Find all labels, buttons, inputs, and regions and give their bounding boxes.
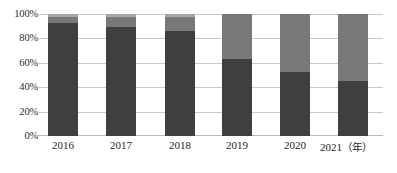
gridline-40 (38, 87, 383, 88)
y-tick-mark-0 (33, 136, 38, 137)
x-tick-label-2021: 2021（年） (320, 139, 390, 154)
bar-segment-series-2-2019 (222, 14, 252, 59)
bar-segment-series-2-2016 (48, 17, 78, 23)
bar-segment-series-2-2020 (280, 14, 310, 72)
y-axis: 100% 80% 60% 40% 20% 0% (0, 0, 38, 173)
gridline-80 (38, 38, 383, 39)
gridline-20 (38, 112, 383, 113)
x-axis: 2016 2017 2018 2019 2020 2021（年） (38, 139, 383, 161)
x-tick-label-2016: 2016 (38, 139, 88, 151)
x-tick-label-2020: 2020 (270, 139, 320, 151)
gridline-60 (38, 63, 383, 64)
x-tick-label-2019: 2019 (212, 139, 262, 151)
bar-segment-series-2-2021 (338, 14, 368, 81)
x-tick-label-2017: 2017 (96, 139, 146, 151)
x-tick-label-2021-year: 2021 (320, 141, 342, 153)
bar-segment-series-1-2017 (106, 27, 136, 136)
bar-segment-series-2-2017 (106, 17, 136, 27)
x-tick-label-2018: 2018 (155, 139, 205, 151)
bar-segment-series-3-2016 (48, 14, 78, 17)
bar-segment-series-2-2018 (165, 17, 195, 31)
bar-segment-series-3-2018 (165, 14, 195, 17)
gridline-0 (38, 135, 383, 136)
stacked-bar-chart: 100% 80% 60% 40% 20% 0% (0, 0, 397, 173)
bar-segment-series-1-2020 (280, 72, 310, 136)
bar-segment-series-1-2016 (48, 23, 78, 137)
plot-area (38, 14, 383, 136)
x-axis-unit-label: （年） (342, 142, 372, 153)
bar-segment-series-1-2021 (338, 81, 368, 136)
bar-segment-series-3-2017 (106, 14, 136, 17)
bar-segment-series-1-2018 (165, 31, 195, 136)
bar-segment-series-1-2019 (222, 59, 252, 136)
gridline-100 (38, 14, 383, 15)
